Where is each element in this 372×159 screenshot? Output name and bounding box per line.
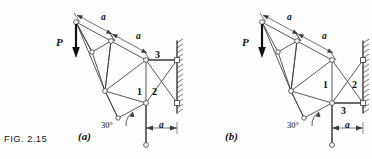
member-label-a-1: 1 xyxy=(137,86,142,97)
panel-label-a: (a) xyxy=(78,130,91,142)
panel-label-b: (b) xyxy=(225,130,238,142)
member-inner-diag-a2 xyxy=(76,22,105,91)
truss-diagram-b xyxy=(186,0,372,159)
member-web-b6 xyxy=(291,91,304,118)
member-upper-chord-a2 xyxy=(111,41,146,60)
dimension-label-b3: a xyxy=(345,120,350,130)
dimension-b2 xyxy=(295,32,336,60)
member-label-a-3: 3 xyxy=(155,49,160,60)
angle-label-a: 30° xyxy=(101,120,113,130)
member-web-b4 xyxy=(291,91,332,103)
dimension-label-a1: a xyxy=(101,12,106,22)
member-label-b-1: 1 xyxy=(323,79,328,90)
member-left-chord-b2 xyxy=(278,52,291,91)
dimension-label-a2: a xyxy=(136,31,141,41)
member-left-chord-a2 xyxy=(92,52,105,91)
load-label-b: P xyxy=(242,36,249,48)
figure-2-15: FIG. 2.15 (a) P a a a 1 2 3 30° (b) P a … xyxy=(0,0,372,159)
member-label-b-2: 2 xyxy=(352,79,357,90)
dimension-label-b1: a xyxy=(287,12,292,22)
dimension-a1 xyxy=(74,13,115,41)
member-upper-chord-b2 xyxy=(297,41,332,60)
member-web-a1 xyxy=(92,41,111,52)
angle-label-b: 30° xyxy=(287,120,299,130)
dimension-a2 xyxy=(109,32,150,60)
member-web-a2 xyxy=(105,41,111,91)
angle-arc-b xyxy=(312,112,321,126)
member-web-b2 xyxy=(291,41,297,91)
load-label-a: P xyxy=(56,36,63,48)
member-web-b1 xyxy=(278,41,297,52)
member-label-a-2: 2 xyxy=(152,86,157,97)
member-web-a6 xyxy=(105,91,118,118)
dimension-b1 xyxy=(260,13,301,41)
member-inner-diag-b2 xyxy=(262,22,291,91)
dimension-label-a3: a xyxy=(159,120,164,130)
member-label-b-3: 3 xyxy=(341,105,346,116)
figure-caption: FIG. 2.15 xyxy=(4,133,47,144)
angle-arc-a xyxy=(126,112,135,126)
dimension-label-b2: a xyxy=(322,31,327,41)
